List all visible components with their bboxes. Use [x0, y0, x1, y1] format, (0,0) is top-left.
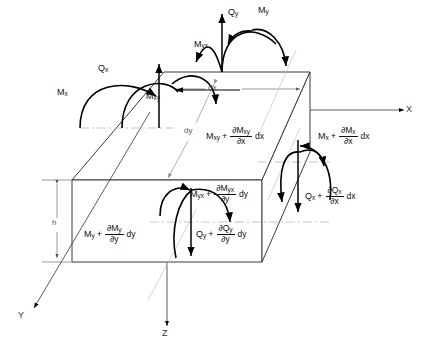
- label-Mxy-incremented-subscript: xy: [214, 134, 221, 141]
- fraction-Mxy-numerator-subscript: xy: [244, 128, 251, 135]
- label-Myx-incremented: Myx + ∂Myx ∂y dy: [190, 184, 248, 205]
- dimension-label-h: h: [52, 218, 56, 227]
- label-Mx-incremented-differential: dx: [361, 132, 370, 141]
- label-Qx: Qx: [98, 64, 108, 74]
- label-Mxy-incremented: Mxy + ∂Mxy ∂x dx: [206, 126, 264, 147]
- dimension-label-dx: dx: [208, 83, 216, 92]
- axis-label-x: X: [406, 104, 412, 114]
- figure-canvas: Mx Qx Mxy Qy My Myx Mxy + ∂Mxy ∂x dx Mx …: [0, 0, 424, 351]
- label-Myx: Myx: [194, 40, 208, 50]
- dimension-label-dy: dy: [184, 126, 192, 135]
- label-Qy-incremented-subscript: y: [203, 232, 206, 239]
- fraction-Mx-dx: ∂Mx ∂x: [339, 126, 358, 147]
- label-My-incremented-differential: dy: [127, 230, 136, 239]
- fraction-Qy-numerator-subscript: y: [229, 226, 232, 233]
- fraction-Qx-numerator-subscript: x: [338, 188, 341, 195]
- fraction-Qx-numerator: ∂Q: [328, 185, 339, 195]
- axis-label-y: Y: [18, 310, 24, 320]
- label-Mx-subscript: x: [65, 90, 68, 97]
- dimension-h: [42, 180, 72, 262]
- label-Myx-subscript: yx: [202, 42, 209, 49]
- label-My: My: [258, 6, 269, 16]
- label-Qx-subscript: x: [105, 66, 108, 73]
- fraction-Mxy-numerator: ∂M: [232, 125, 243, 135]
- fraction-Myx-numerator: ∂M: [216, 183, 227, 193]
- fraction-Mx-numerator-subscript: x: [352, 128, 355, 135]
- axis-label-z: Z: [162, 328, 168, 338]
- label-Qy-incremented-differential: dy: [238, 230, 247, 239]
- label-Qy-subscript: y: [235, 10, 238, 17]
- fraction-Qx-dx: ∂Qx ∂x: [326, 186, 344, 207]
- fraction-Qy-numerator: ∂Q: [219, 223, 230, 233]
- label-Mxy: Mxy: [146, 92, 160, 102]
- label-Qx-incremented-subscript: x: [312, 194, 315, 201]
- fraction-Mxy-denominator: ∂x: [230, 136, 252, 147]
- load-Myx-arrow: [196, 32, 276, 72]
- label-Mxy-subscript: xy: [154, 94, 161, 101]
- fraction-Qx-denominator: ∂x: [326, 196, 344, 207]
- label-Mx: Mx: [57, 88, 68, 98]
- label-My-incremented-subscript: y: [92, 232, 95, 239]
- plate-element-drawing: [0, 0, 424, 351]
- label-Mx-incremented: Mx + ∂Mx ∂x dx: [318, 126, 370, 147]
- fraction-Qy-denominator: ∂y: [217, 234, 235, 245]
- label-Qx-incremented: Qx + ∂Qx ∂x dx: [305, 186, 356, 207]
- fraction-Myx-denominator: ∂y: [214, 194, 236, 205]
- label-Qx-incremented-differential: dx: [347, 192, 356, 201]
- fraction-Qy-dy: ∂Qy ∂y: [217, 224, 235, 245]
- label-Myx-incremented-subscript: yx: [198, 192, 205, 199]
- fraction-Mx-denominator: ∂x: [339, 136, 358, 147]
- load-My-arrow: [228, 29, 286, 66]
- label-Qy: Qy: [228, 8, 238, 18]
- label-My-subscript: y: [266, 8, 269, 15]
- label-Mxy-incremented-differential: dx: [255, 132, 264, 141]
- fraction-Mx-numerator: ∂M: [341, 125, 352, 135]
- label-Qy-incremented: Qy + ∂Qy ∂y dy: [196, 224, 247, 245]
- label-My-incremented: My + ∂My ∂y dy: [84, 224, 136, 245]
- fraction-Myx-numerator-subscript: yx: [228, 186, 235, 193]
- fraction-My-numerator-subscript: y: [118, 226, 121, 233]
- fraction-Mxy-dx: ∂Mxy ∂x: [230, 126, 252, 147]
- fraction-My-dy: ∂My ∂y: [105, 224, 124, 245]
- label-Mx-incremented-subscript: x: [326, 134, 329, 141]
- fraction-My-denominator: ∂y: [105, 234, 124, 245]
- fraction-Myx-dy: ∂Myx ∂y: [214, 184, 236, 205]
- fraction-My-numerator: ∂M: [107, 223, 118, 233]
- label-Myx-incremented-differential: dy: [239, 190, 248, 199]
